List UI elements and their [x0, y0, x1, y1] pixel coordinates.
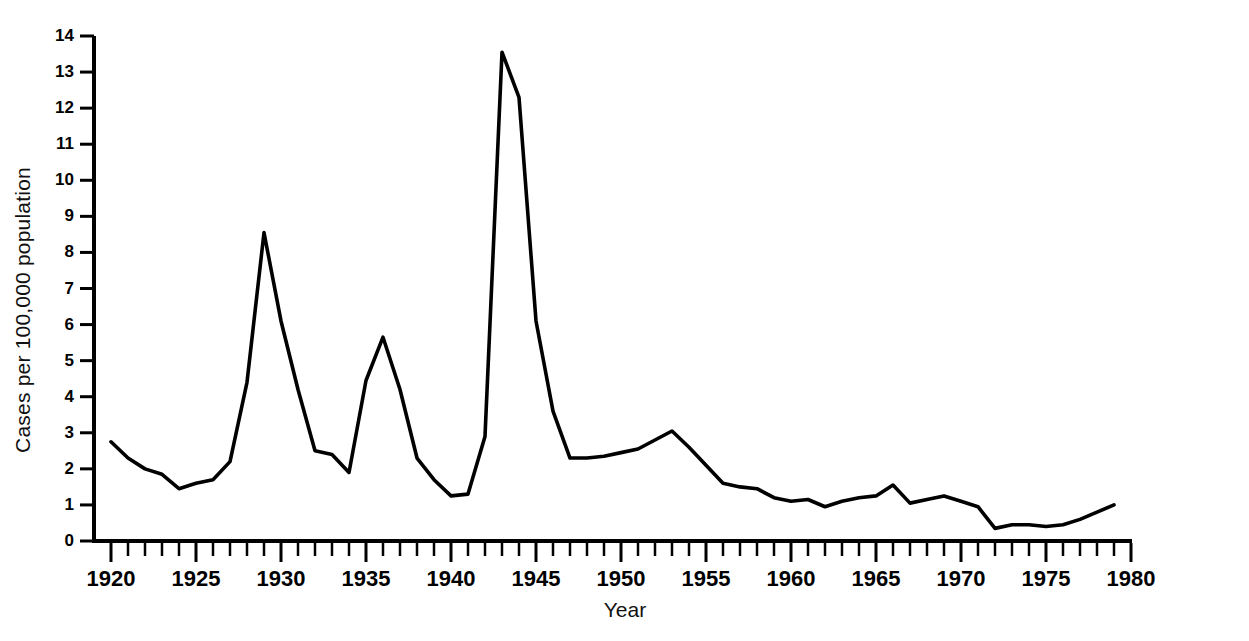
x-tick-label: 1980	[1091, 568, 1171, 590]
x-tick-label: 1970	[921, 568, 1001, 590]
x-tick-label: 1930	[241, 568, 321, 590]
x-tick-label: 1960	[751, 568, 831, 590]
y-tick-label: 9	[40, 207, 74, 224]
axis-spine	[94, 36, 1132, 541]
x-tick-label: 1940	[411, 568, 491, 590]
chart-figure: 01234567891011121314 1920192519301935194…	[0, 0, 1249, 641]
y-tick-label: 11	[40, 135, 74, 152]
y-axis-title: Cases per 100,000 population	[1, 58, 45, 563]
y-axis-ticks	[80, 36, 94, 541]
y-tick-label: 5	[40, 352, 74, 369]
y-tick-label: 8	[40, 243, 74, 260]
x-tick-label: 1950	[581, 568, 661, 590]
y-tick-label: 2	[40, 460, 74, 477]
y-tick-label: 1	[40, 496, 74, 513]
y-tick-label: 10	[40, 171, 74, 188]
x-tick-label: 1920	[71, 568, 151, 590]
y-tick-label: 0	[40, 532, 74, 549]
y-tick-label: 14	[40, 27, 74, 44]
y-tick-label: 3	[40, 424, 74, 441]
x-axis-title: Year	[555, 598, 695, 622]
y-tick-label: 7	[40, 280, 74, 297]
y-tick-label: 13	[40, 63, 74, 80]
x-tick-label: 1965	[836, 568, 916, 590]
x-tick-label: 1975	[1006, 568, 1086, 590]
x-tick-label: 1945	[496, 568, 576, 590]
data-series-line	[111, 52, 1114, 528]
y-tick-label: 4	[40, 388, 74, 405]
x-tick-label: 1925	[156, 568, 236, 590]
y-tick-label: 12	[40, 99, 74, 116]
y-tick-label: 6	[40, 316, 74, 333]
x-tick-label: 1935	[326, 568, 406, 590]
line-chart-plot	[0, 0, 1249, 641]
x-tick-label: 1955	[666, 568, 746, 590]
